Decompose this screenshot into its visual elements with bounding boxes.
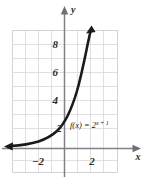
- curve-arrow-left-icon: [4, 142, 13, 150]
- x-tick-label-2: 2: [88, 155, 95, 167]
- function-equation-exponent: x + 1: [95, 120, 109, 126]
- exponential-function-graph: 8 6 4 2 −2 2 y x f(x) = 2x + 1: [0, 0, 148, 178]
- graph-canvas: 8 6 4 2 −2 2 y x f(x) = 2x + 1: [0, 0, 148, 178]
- y-axis-arrow-icon: [61, 6, 68, 15]
- y-axis-name: y: [70, 4, 76, 15]
- y-axis: [61, 6, 68, 177]
- x-tick-label-neg2: −2: [32, 155, 45, 167]
- function-equation-base: f(x) = 2: [70, 120, 97, 130]
- y-tick-label-6: 6: [53, 66, 59, 78]
- y-tick-label-2: 2: [56, 122, 63, 134]
- curve-arrow-up-icon: [86, 26, 96, 34]
- y-tick-label-8: 8: [53, 38, 59, 50]
- x-axis-name: x: [135, 151, 141, 162]
- y-tick-label-4: 4: [52, 94, 59, 106]
